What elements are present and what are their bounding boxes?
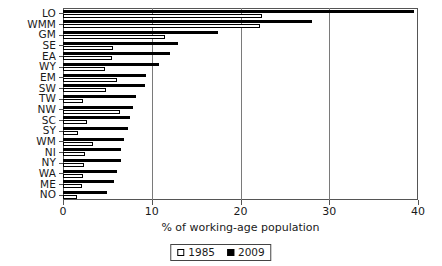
y-tick-NO bbox=[59, 195, 63, 196]
y-axis-label-NI: NI bbox=[45, 147, 56, 157]
bar-1985-SY[interactable] bbox=[63, 131, 78, 135]
y-tick-LO bbox=[59, 13, 63, 14]
bar-1985-NY[interactable] bbox=[63, 163, 84, 167]
y-axis-label-ME: ME bbox=[40, 179, 56, 189]
y-tick-SC bbox=[59, 120, 63, 121]
bar-2009-NO[interactable] bbox=[63, 191, 107, 194]
chart-legend: 1985 2009 bbox=[170, 244, 271, 261]
y-axis-label-SW: SW bbox=[39, 83, 56, 93]
y-tick-TW bbox=[59, 99, 63, 100]
x-tick-label-30: 30 bbox=[309, 206, 349, 218]
bar-2009-NI[interactable] bbox=[63, 148, 121, 151]
x-tick-label-20: 20 bbox=[221, 206, 261, 218]
bar-2009-NY[interactable] bbox=[63, 159, 121, 162]
bar-row bbox=[63, 63, 418, 74]
bar-1985-EA[interactable] bbox=[63, 56, 112, 60]
bar-row bbox=[63, 159, 418, 170]
x-tick-label-0: 0 bbox=[43, 206, 83, 218]
bar-row bbox=[63, 10, 418, 21]
y-tick-NW bbox=[59, 109, 63, 110]
y-axis-label-NW: NW bbox=[38, 104, 56, 114]
y-axis-label-NO: NO bbox=[40, 189, 56, 199]
y-tick-EM bbox=[59, 77, 63, 78]
y-axis-label-EM: EM bbox=[40, 72, 56, 82]
bar-2009-GM[interactable] bbox=[63, 31, 218, 34]
bar-1985-WM[interactable] bbox=[63, 142, 93, 146]
legend-label-1985: 1985 bbox=[188, 246, 215, 258]
bar-2009-LO[interactable] bbox=[63, 10, 414, 13]
y-axis-label-WY: WY bbox=[39, 61, 56, 71]
bar-1985-SE[interactable] bbox=[63, 46, 113, 50]
bar-1985-WMM[interactable] bbox=[63, 24, 260, 28]
bar-2009-EA[interactable] bbox=[63, 52, 170, 55]
bar-row bbox=[63, 42, 418, 53]
bar-1985-LO[interactable] bbox=[63, 14, 262, 18]
bar-1985-WA[interactable] bbox=[63, 174, 83, 178]
y-axis-label-NY: NY bbox=[42, 157, 56, 167]
y-axis-label-TW: TW bbox=[39, 93, 56, 103]
bar-row bbox=[63, 106, 418, 117]
bar-row bbox=[63, 31, 418, 42]
bar-2009-WMM[interactable] bbox=[63, 20, 312, 23]
x-axis-title: % of working-age population bbox=[63, 221, 418, 234]
legend-item-2009[interactable]: 2009 bbox=[227, 246, 265, 258]
y-tick-WA bbox=[59, 173, 63, 174]
bar-2009-TW[interactable] bbox=[63, 95, 136, 98]
y-tick-EA bbox=[59, 56, 63, 57]
bar-1985-SW[interactable] bbox=[63, 88, 106, 92]
plot-area bbox=[63, 8, 418, 200]
bar-1985-EM[interactable] bbox=[63, 78, 117, 82]
bar-1985-NW[interactable] bbox=[63, 110, 120, 114]
bar-2009-SY[interactable] bbox=[63, 127, 128, 130]
bar-row bbox=[63, 116, 418, 127]
y-axis-label-SY: SY bbox=[43, 125, 56, 135]
y-tick-ME bbox=[59, 184, 63, 185]
bar-row bbox=[63, 74, 418, 85]
y-tick-WMM bbox=[59, 24, 63, 25]
bar-rows bbox=[63, 8, 418, 200]
y-axis-label-EA: EA bbox=[42, 51, 56, 61]
y-axis-label-SE: SE bbox=[43, 40, 57, 50]
y-axis-label-SC: SC bbox=[42, 115, 56, 125]
y-axis-label-GM: GM bbox=[39, 29, 56, 39]
bar-1985-TW[interactable] bbox=[63, 99, 83, 103]
bar-row bbox=[63, 127, 418, 138]
bar-row bbox=[63, 95, 418, 106]
y-axis-label-WMM: WMM bbox=[27, 19, 56, 29]
bar-1985-ME[interactable] bbox=[63, 184, 82, 188]
bar-2009-ME[interactable] bbox=[63, 180, 114, 183]
y-axis-labels: LOWMMGMSEEAWYEMSWTWNWSCSYWMNINYWAMENO bbox=[0, 8, 60, 200]
y-tick-WM bbox=[59, 141, 63, 142]
legend-item-1985[interactable]: 1985 bbox=[177, 246, 215, 258]
filled-square-icon bbox=[227, 249, 234, 256]
bar-2009-EM[interactable] bbox=[63, 74, 146, 77]
bar-1985-NO[interactable] bbox=[63, 195, 77, 199]
bar-1985-NI[interactable] bbox=[63, 152, 85, 156]
bar-1985-WY[interactable] bbox=[63, 67, 105, 71]
bar-2009-NW[interactable] bbox=[63, 106, 133, 109]
y-tick-SE bbox=[59, 45, 63, 46]
y-axis-label-LO: LO bbox=[42, 8, 56, 18]
y-tick-GM bbox=[59, 35, 63, 36]
y-tick-NI bbox=[59, 152, 63, 153]
y-tick-SY bbox=[59, 131, 63, 132]
bar-2009-WY[interactable] bbox=[63, 63, 159, 66]
bar-row bbox=[63, 20, 418, 31]
bar-1985-SC[interactable] bbox=[63, 120, 87, 124]
bar-2009-WA[interactable] bbox=[63, 170, 117, 173]
legend-label-2009: 2009 bbox=[238, 246, 265, 258]
bar-1985-GM[interactable] bbox=[63, 35, 165, 39]
y-axis-label-WA: WA bbox=[39, 168, 56, 178]
bar-2009-SW[interactable] bbox=[63, 84, 145, 87]
bar-chart: LOWMMGMSEEAWYEMSWTWNWSCSYWMNINYWAMENO 01… bbox=[0, 0, 442, 266]
bar-row bbox=[63, 84, 418, 95]
bar-2009-WM[interactable] bbox=[63, 138, 124, 141]
bar-2009-SC[interactable] bbox=[63, 116, 130, 119]
bar-2009-SE[interactable] bbox=[63, 42, 178, 45]
y-axis-label-WM: WM bbox=[36, 136, 56, 146]
y-tick-WY bbox=[59, 67, 63, 68]
bar-row bbox=[63, 170, 418, 181]
bar-row bbox=[63, 138, 418, 149]
x-tick-label-40: 40 bbox=[398, 206, 438, 218]
x-tick-label-10: 10 bbox=[132, 206, 172, 218]
